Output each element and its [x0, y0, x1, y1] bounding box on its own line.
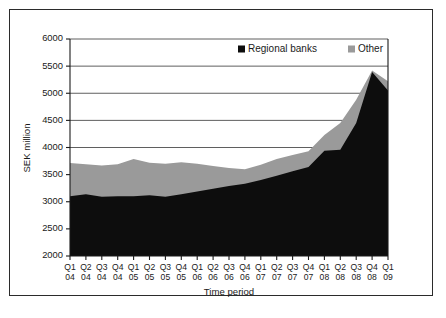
chart-plot-area: 200025003000350040004500500055006000 Q10… — [0, 0, 446, 318]
x-tick-label-quarter: Q4 — [366, 262, 378, 272]
x-tick-label-year: 07 — [304, 272, 314, 282]
x-tick-label-year: 08 — [351, 272, 361, 282]
x-tick-label-year: 06 — [240, 272, 250, 282]
x-tick-label-year: 05 — [161, 272, 171, 282]
x-tick-label-quarter: Q3 — [96, 262, 108, 272]
x-tick-label-quarter: Q4 — [303, 262, 315, 272]
x-tick-label-quarter: Q3 — [350, 262, 362, 272]
y-tick-group: 200025003000350040004500500055006000 — [42, 32, 70, 260]
x-tick-label-year: 04 — [113, 272, 123, 282]
y-tick-label: 5000 — [42, 87, 63, 98]
legend-swatch — [348, 46, 355, 53]
x-tick-label-year: 06 — [208, 272, 218, 282]
x-tick-label-year: 07 — [272, 272, 282, 282]
x-tick-label-year: 05 — [129, 272, 139, 282]
x-tick-label-quarter: Q2 — [207, 262, 219, 272]
x-tick-label-quarter: Q1 — [191, 262, 203, 272]
x-tick-label-year: 06 — [192, 272, 202, 282]
x-tick-label-year: 08 — [336, 272, 346, 282]
x-tick-label-year: 04 — [81, 272, 91, 282]
x-tick-label-year: 04 — [97, 272, 107, 282]
x-tick-label-quarter: Q1 — [319, 262, 331, 272]
x-tick-label-year: 06 — [224, 272, 234, 282]
x-tick-label-year: 05 — [177, 272, 187, 282]
x-tick-label-quarter: Q1 — [382, 262, 394, 272]
x-tick-label-year: 08 — [367, 272, 377, 282]
x-tick-label-year: 07 — [288, 272, 298, 282]
stacked-area-chart: 200025003000350040004500500055006000 Q10… — [0, 0, 446, 318]
y-tick-label: 3500 — [42, 168, 63, 179]
figure-container: 200025003000350040004500500055006000 Q10… — [0, 0, 446, 318]
y-tick-label: 4000 — [42, 141, 63, 152]
x-tick-label-year: 04 — [65, 272, 75, 282]
y-tick-label: 2000 — [42, 249, 63, 260]
x-tick-label-quarter: Q2 — [144, 262, 156, 272]
y-tick-label: 3000 — [42, 195, 63, 206]
y-tick-label: 5500 — [42, 60, 63, 71]
x-tick-label-year: 07 — [256, 272, 266, 282]
x-tick-label-quarter: Q4 — [239, 262, 251, 272]
x-tick-label-quarter: Q1 — [128, 262, 140, 272]
x-tick-label-quarter: Q2 — [335, 262, 347, 272]
x-tick-label-quarter: Q3 — [160, 262, 172, 272]
x-tick-label-year: 09 — [383, 272, 393, 282]
x-tick-label-quarter: Q2 — [80, 262, 92, 272]
x-tick-label-quarter: Q4 — [112, 262, 124, 272]
y-tick-label: 6000 — [42, 32, 63, 43]
x-tick-label-quarter: Q2 — [271, 262, 283, 272]
legend-label: Regional banks — [248, 43, 317, 54]
x-tick-label-quarter: Q4 — [176, 262, 188, 272]
x-tick-label-quarter: Q1 — [255, 262, 267, 272]
x-tick-group: Q104Q204Q304Q404Q105Q205Q305Q405Q106Q206… — [64, 256, 394, 282]
x-tick-label-quarter: Q3 — [223, 262, 235, 272]
x-tick-label-quarter: Q1 — [64, 262, 76, 272]
legend-label: Other — [358, 43, 384, 54]
x-tick-label-year: 05 — [145, 272, 155, 282]
y-tick-label: 4500 — [42, 114, 63, 125]
chart-legend: Regional banksOther — [238, 43, 384, 54]
legend-swatch — [238, 46, 245, 53]
y-axis-title: SEK million — [21, 123, 32, 172]
x-tick-label-year: 08 — [320, 272, 330, 282]
x-axis-title: Time period — [204, 286, 254, 297]
x-tick-label-quarter: Q3 — [287, 262, 299, 272]
y-tick-label: 2500 — [42, 222, 63, 233]
